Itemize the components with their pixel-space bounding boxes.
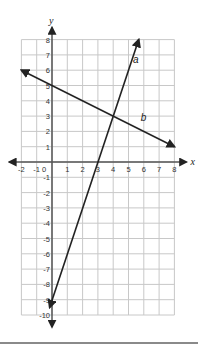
y-tick-label: -6	[43, 250, 50, 259]
x-tick-label: 1	[65, 165, 69, 174]
y-tick-label: -5	[43, 235, 50, 244]
y-tick-label: -10	[39, 311, 50, 320]
x-tick-label: 8	[172, 165, 176, 174]
y-tick-label: -4	[43, 219, 50, 228]
y-tick-label: -8	[43, 280, 50, 289]
x-tick-label: 4	[111, 165, 115, 174]
y-tick-label: -9	[43, 296, 50, 305]
y-tick-label: 3	[46, 112, 50, 121]
coordinate-plane: xy-2-1012345678-10-9-8-7-6-5-4-3-2-11234…	[0, 0, 198, 345]
line-label-b: b	[141, 112, 147, 123]
y-tick-label: 2	[46, 127, 50, 136]
y-tick-label: 6	[46, 66, 50, 75]
y-axis-label: y	[48, 15, 54, 26]
y-tick-label: -1	[43, 173, 50, 182]
line-a	[50, 40, 139, 308]
x-tick-label: -2	[18, 165, 25, 174]
x-tick-label: 5	[126, 165, 130, 174]
x-axis-label: x	[189, 156, 195, 167]
y-tick-label: -3	[43, 204, 50, 213]
line-label-a: a	[133, 54, 139, 65]
y-tick-label: -2	[43, 189, 50, 198]
y-tick-label: 8	[46, 36, 50, 45]
x-tick-label: 6	[142, 165, 146, 174]
y-tick-label: 7	[46, 51, 50, 60]
bottom-divider	[0, 342, 198, 344]
y-tick-label: 4	[46, 97, 50, 106]
x-tick-label: 7	[157, 165, 161, 174]
y-tick-label: -7	[43, 265, 50, 274]
x-tick-label: -1	[33, 165, 40, 174]
x-tick-label: 2	[81, 165, 85, 174]
y-tick-label: 1	[46, 143, 50, 152]
